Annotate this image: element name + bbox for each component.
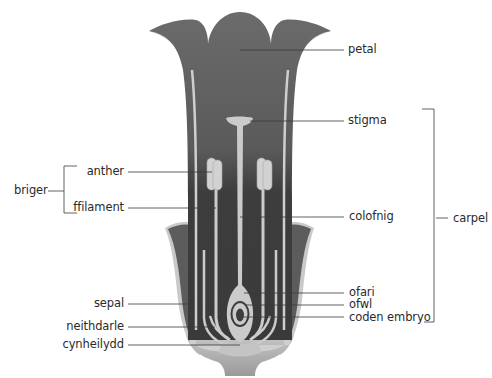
label-colofnig: colofnig xyxy=(349,209,394,223)
label-anther: anther xyxy=(87,164,124,178)
embryo-sac xyxy=(236,309,244,322)
label-coden-embryo: coden embryo xyxy=(349,310,431,324)
label-stigma: stigma xyxy=(348,113,387,127)
label-carpel: carpel xyxy=(453,211,488,225)
label-briger: briger xyxy=(14,183,48,197)
label-neithdarle: neithdarle xyxy=(66,319,124,333)
label-ofwl: ofwl xyxy=(349,297,372,311)
label-cynheilydd: cynheilydd xyxy=(62,337,124,351)
flower-diagram: briger anther ffilament sepal neithdarle… xyxy=(0,0,492,378)
label-ffilament: ffilament xyxy=(73,200,124,214)
label-sepal: sepal xyxy=(94,296,124,310)
label-petal: petal xyxy=(348,42,377,56)
